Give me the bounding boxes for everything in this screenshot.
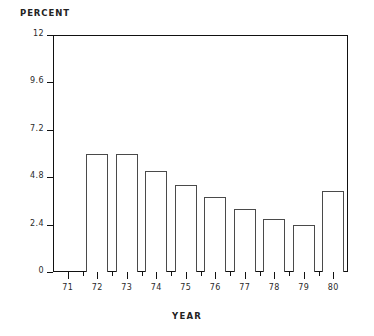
x-minor-tick-mark xyxy=(201,272,202,276)
x-tick-label: 71 xyxy=(53,283,83,292)
y-tick-label: 12 xyxy=(33,29,44,38)
x-minor-tick-mark xyxy=(142,272,143,276)
x-minor-tick-mark xyxy=(83,272,84,276)
y-tick-label: 7.2 xyxy=(30,124,44,133)
y-tick-label: 0 xyxy=(39,266,45,275)
bar xyxy=(263,219,285,272)
bar xyxy=(175,185,197,272)
x-minor-tick-mark xyxy=(171,272,172,276)
x-minor-tick-mark xyxy=(260,272,261,276)
bar xyxy=(145,171,167,272)
bar xyxy=(234,209,256,272)
x-minor-tick-mark xyxy=(289,272,290,276)
x-tick-mark xyxy=(274,272,275,279)
x-tick-mark xyxy=(68,272,69,279)
x-minor-tick-mark xyxy=(112,272,113,276)
y-tick-mark xyxy=(47,272,53,273)
bar xyxy=(116,154,138,273)
y-tick-mark xyxy=(47,177,53,178)
bar xyxy=(86,154,108,273)
y-tick-mark xyxy=(47,130,53,131)
x-tick-label: 73 xyxy=(112,283,142,292)
x-minor-tick-mark xyxy=(319,272,320,276)
x-tick-mark xyxy=(97,272,98,279)
x-tick-label: 74 xyxy=(141,283,171,292)
x-tick-mark xyxy=(156,272,157,279)
x-tick-mark xyxy=(245,272,246,279)
x-tick-mark xyxy=(215,272,216,279)
x-tick-mark xyxy=(333,272,334,279)
y-tick-mark xyxy=(47,35,53,36)
y-tick-mark xyxy=(47,225,53,226)
y-tick-label: 4.8 xyxy=(30,171,44,180)
x-tick-mark xyxy=(304,272,305,279)
y-tick-label: 9.6 xyxy=(30,76,44,85)
bar xyxy=(293,225,315,272)
x-tick-label: 75 xyxy=(171,283,201,292)
x-tick-label: 77 xyxy=(230,283,260,292)
y-axis-title: PERCENT xyxy=(20,8,70,18)
x-axis-title: YEAR xyxy=(0,311,374,321)
x-tick-label: 76 xyxy=(200,283,230,292)
x-tick-label: 79 xyxy=(289,283,319,292)
x-tick-label: 72 xyxy=(82,283,112,292)
x-tick-label: 80 xyxy=(318,283,348,292)
x-tick-mark xyxy=(186,272,187,279)
bar xyxy=(322,191,344,272)
bar-chart-figure: PERCENT 02.44.87.29.612 7172737475767778… xyxy=(0,0,374,336)
x-tick-mark xyxy=(127,272,128,279)
bar xyxy=(204,197,226,272)
y-tick-mark xyxy=(47,82,53,83)
y-tick-label: 2.4 xyxy=(30,219,44,228)
x-minor-tick-mark xyxy=(230,272,231,276)
x-tick-label: 78 xyxy=(259,283,289,292)
